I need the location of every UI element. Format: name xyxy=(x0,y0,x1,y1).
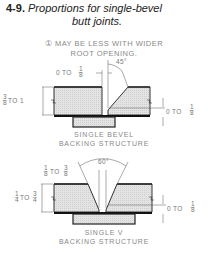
v-gap-frac-a-den: 8 xyxy=(44,170,48,177)
single-bevel-diagram: 0 TO 1 8 45° 3 8 TO 1 0 TO 1 8 SINGLE BE… xyxy=(3,58,195,147)
v-caption-line1: SINGLE V xyxy=(85,229,124,236)
single-v-diagram: 60° 1 8 TO 3 8 1 4 TO 3 4 0 TO 1 8 SINGL… xyxy=(15,158,196,245)
bevel-thickness-label: TO 1 xyxy=(8,97,24,104)
v-angle: 60° xyxy=(98,158,109,165)
bevel-angle: 45° xyxy=(116,58,127,65)
joint-diagrams: 0 TO 1 8 45° 3 8 TO 1 0 TO 1 8 SINGLE BE… xyxy=(0,0,208,254)
v-gap-frac-b-den: 8 xyxy=(64,170,68,177)
v-thickness-frac-a-den: 4 xyxy=(15,196,19,203)
bevel-root-frac-den: 8 xyxy=(190,109,194,116)
v-root-label: 0 TO xyxy=(167,205,183,212)
v-thickness-frac-b-den: 4 xyxy=(33,196,37,203)
bevel-root-label: 0 TO xyxy=(166,108,182,115)
bevel-gap-label: 0 TO xyxy=(56,69,72,76)
bevel-caption-line1: SINGLE BEVEL xyxy=(74,131,134,138)
v-gap-label: TO xyxy=(50,168,60,175)
v-thickness-label: TO xyxy=(20,194,30,201)
bevel-gap-frac-den: 8 xyxy=(79,71,83,78)
v-caption-line2: BACKING STRUCTURE xyxy=(59,238,149,245)
bevel-thickness-frac-den: 8 xyxy=(3,99,7,106)
bevel-caption-line2: BACKING STRUCTURE xyxy=(59,140,149,147)
v-root-frac-den: 8 xyxy=(191,206,195,213)
